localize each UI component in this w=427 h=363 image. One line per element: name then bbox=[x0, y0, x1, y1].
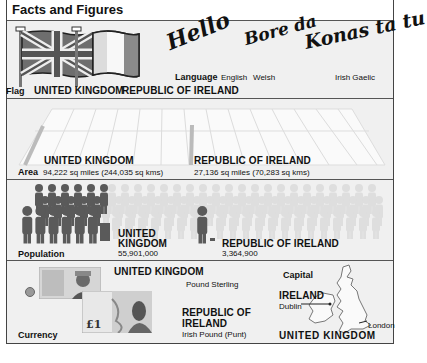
population-ie-value: 3,364,900 bbox=[222, 249, 258, 258]
currency-label: Currency bbox=[18, 330, 58, 340]
language-english: English bbox=[221, 73, 247, 82]
language-label: Language bbox=[175, 72, 218, 82]
note-denomination: £1 bbox=[86, 318, 101, 331]
facts-figures-panel: Facts and Figures bbox=[6, 0, 394, 344]
currency-ie-name-line2: IRELAND bbox=[182, 318, 227, 329]
area-ie-value: 27,136 sq miles (70,283 sq kms) bbox=[194, 168, 310, 177]
ireland-flag-icon bbox=[93, 31, 139, 77]
area-uk-name: UNITED KINGDOM bbox=[44, 155, 134, 166]
population-ie-name: REPUBLIC OF IRELAND bbox=[222, 238, 339, 249]
flag-ie-name: REPUBLIC OF IRELAND bbox=[122, 85, 239, 96]
capital-label: Capital bbox=[283, 270, 313, 280]
currency-uk-name: UNITED KINGDOM bbox=[114, 266, 204, 277]
coin-icon bbox=[25, 287, 35, 297]
capital-ie-name: IRELAND bbox=[279, 290, 324, 301]
currency-uk-value: Pound Sterling bbox=[186, 280, 238, 289]
flag-uk-name: UNITED KINGDOM bbox=[34, 85, 124, 96]
area-uk-value: 94,222 sq miles (244,035 sq kms) bbox=[43, 168, 163, 177]
flag-label: Flag bbox=[6, 86, 25, 96]
capital-uk-city: London bbox=[368, 321, 395, 330]
ie-area-marker bbox=[191, 125, 192, 165]
flag-language-section: Hello Bore da Konas ta tu Language Engli… bbox=[7, 21, 393, 99]
population-section: UNITED KINGDOM REPUBLIC OF IRELAND Popul… bbox=[7, 180, 393, 261]
capital-uk-name: UNITED KINGDOM bbox=[279, 330, 376, 341]
irish-pound-note-icon: £1 bbox=[82, 291, 152, 333]
population-uk-value: 55,901,000 bbox=[118, 249, 158, 258]
area-section: UNITED KINGDOM REPUBLIC OF IRELAND Area … bbox=[7, 99, 393, 180]
population-label: Population bbox=[18, 249, 65, 259]
area-label: Area bbox=[18, 167, 38, 177]
language-welsh: Welsh bbox=[253, 73, 275, 82]
currency-ie-name-line1: REPUBLIC OF bbox=[182, 307, 251, 318]
currency-ie-value: Irish Pound (Punt) bbox=[182, 330, 246, 339]
population-uk-name-line2: KINGDOM bbox=[118, 238, 167, 249]
currency-capital-section: £1 UNITED KINGDOM Pound Sterling REPUBLI… bbox=[7, 261, 393, 343]
area-ie-name: REPUBLIC OF IRELAND bbox=[194, 155, 311, 166]
page-title: Facts and Figures bbox=[12, 2, 123, 17]
uk-flag-icon bbox=[22, 31, 93, 77]
flags-illustration bbox=[13, 25, 143, 89]
great-britain-shape bbox=[337, 265, 371, 333]
capital-ie-city: Dublin bbox=[279, 302, 302, 311]
language-irish-gaelic: Irish Gaelic bbox=[335, 73, 375, 82]
